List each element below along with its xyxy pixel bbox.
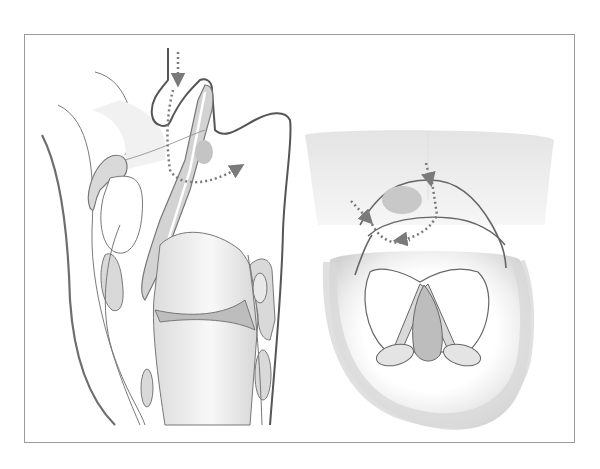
sagittal-section-panel [42, 48, 291, 425]
vallecula-shading [382, 186, 422, 214]
endoscopic-view-panel [305, 130, 554, 430]
thyroid-cartilage [153, 232, 258, 425]
anatomy-figure [0, 0, 600, 469]
